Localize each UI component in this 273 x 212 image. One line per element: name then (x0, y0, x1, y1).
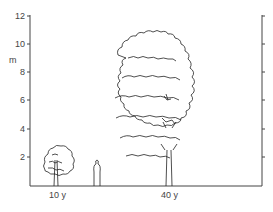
y-tick-4: 4 (20, 125, 25, 134)
axes (27, 15, 265, 186)
y-axis-unit: m (9, 56, 17, 65)
y-tick-10: 10 (15, 40, 25, 49)
young-tree-icon (44, 145, 75, 186)
y-tick-2: 2 (20, 153, 25, 162)
x-label-40y: 40 y (161, 191, 178, 200)
human-figure-icon (94, 160, 101, 186)
tree-height-diagram (0, 0, 273, 212)
y-tick-12: 12 (15, 12, 25, 21)
mature-tree-icon (115, 31, 195, 187)
y-tick-6: 6 (20, 96, 25, 105)
y-tick-8: 8 (20, 68, 25, 77)
x-label-10y: 10 y (49, 191, 66, 200)
